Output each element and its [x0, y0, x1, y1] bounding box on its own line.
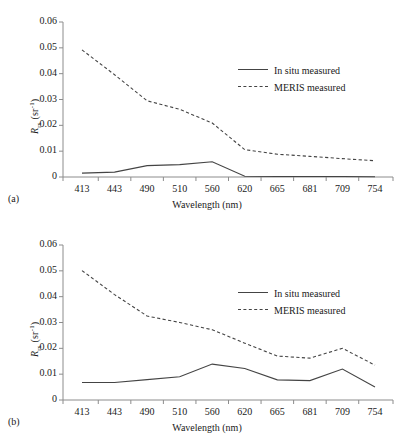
y-tick-label: 0.01 [27, 367, 57, 378]
x-tick-label: 665 [260, 183, 294, 194]
x-tick-label: 490 [130, 183, 164, 194]
x-tick-label: 510 [163, 406, 197, 417]
y-tick-label: 0.06 [27, 238, 57, 249]
legend-label: MERIS measured [274, 305, 345, 316]
x-axis-label-b: Wavelength (nm) [0, 422, 414, 433]
x-tick-label: 754 [358, 406, 392, 417]
x-tick-label: 620 [228, 406, 262, 417]
series-line-solid [82, 364, 375, 387]
legend-label: In situ measured [274, 288, 340, 299]
y-tick-label: 0.03 [27, 93, 57, 104]
legend-label: In situ measured [274, 65, 340, 76]
x-tick-label: 560 [195, 406, 229, 417]
y-tick-label: 0.05 [27, 41, 57, 52]
y-tick-label: 0.02 [27, 118, 57, 129]
legend-b: In situ measuredMERIS measured [238, 287, 345, 321]
legend-item: In situ measured [238, 287, 345, 304]
y-tick-label: 0.04 [27, 67, 57, 78]
x-tick-label: 709 [325, 183, 359, 194]
legend-item: In situ measured [238, 64, 345, 81]
y-tick-label: 0.05 [27, 264, 57, 275]
y-tick-label: 0.06 [27, 15, 57, 26]
series-line-solid [82, 162, 375, 177]
x-tick-label: 413 [65, 183, 99, 194]
x-tick-label: 665 [260, 406, 294, 417]
x-tick-label: 560 [195, 183, 229, 194]
legend-item: MERIS measured [238, 304, 345, 321]
legend-item: MERIS measured [238, 81, 345, 98]
panel-a-tag: (a) [8, 193, 19, 204]
legend-a: In situ measuredMERIS measured [238, 64, 345, 98]
x-tick-label: 709 [325, 406, 359, 417]
x-tick-label: 681 [293, 406, 327, 417]
legend-swatch-dashed [238, 309, 268, 310]
x-tick-label: 443 [98, 406, 132, 417]
y-tick-label: 0.04 [27, 290, 57, 301]
y-tick-label: 0.03 [27, 316, 57, 327]
y-tick-label: 0 [27, 393, 57, 404]
y-tick-label: 0.02 [27, 341, 57, 352]
x-tick-label: 620 [228, 183, 262, 194]
legend-swatch-solid [238, 69, 268, 70]
chart-panel-a: Rrs (sr-1) 00.010.020.030.040.050.06 413… [0, 0, 414, 223]
x-tick-label: 681 [293, 183, 327, 194]
x-axis-label-a: Wavelength (nm) [0, 199, 414, 210]
chart-panel-b: Rrs (sr-1) 00.010.020.030.040.050.06 413… [0, 223, 414, 446]
x-tick-label: 413 [65, 406, 99, 417]
legend-swatch-dashed [238, 86, 268, 87]
legend-label: MERIS measured [274, 82, 345, 93]
x-tick-label: 490 [130, 406, 164, 417]
x-tick-label: 754 [358, 183, 392, 194]
x-tick-label: 510 [163, 183, 197, 194]
x-tick-label: 443 [98, 183, 132, 194]
panel-b-tag: (b) [8, 416, 20, 427]
y-tick-label: 0.01 [27, 144, 57, 155]
legend-swatch-solid [238, 292, 268, 293]
y-tick-label: 0 [27, 170, 57, 181]
